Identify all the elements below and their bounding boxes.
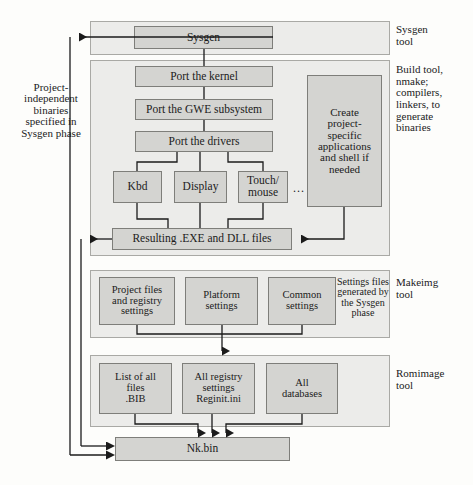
node-nk-bin-label: Nk.bin xyxy=(185,443,221,455)
side-label-build-tool: Build tool, nmake; compilers, linkers, t… xyxy=(396,64,470,134)
node-port-the-gwe-subsystem-label: Port the GWE subsystem xyxy=(144,104,264,116)
node-all-databases-label: All databases xyxy=(280,378,324,400)
node-all-registry-settings-reginit-ini[interactable]: All registry settings Reginit.ini xyxy=(182,363,255,414)
node-project-files-and-registry-settings[interactable]: Project files and registry settings xyxy=(99,277,175,325)
node-platform-settings[interactable]: Platform settings xyxy=(185,277,258,325)
node-list-of-all-files-bib[interactable]: List of all files .BIB xyxy=(99,363,172,414)
node-resulting-exe-dll-files-label: Resulting .EXE and DLL files xyxy=(130,233,273,245)
node-port-the-drivers[interactable]: Port the drivers xyxy=(135,131,273,152)
side-label-makeimg-tool: Makeimg tool xyxy=(396,277,470,300)
left-note-project-independent-binaries: Project- independent binaries specified … xyxy=(12,82,90,139)
node-display[interactable]: Display xyxy=(174,171,227,203)
node-project-files-and-registry-settings-label: Project files and registry settings xyxy=(110,285,164,317)
node-kbd-label: Kbd xyxy=(126,181,150,193)
node-port-the-gwe-subsystem[interactable]: Port the GWE subsystem xyxy=(135,99,273,120)
drivers-ellipsis: ... xyxy=(293,181,305,196)
node-touch-mouse[interactable]: Touch/ mouse xyxy=(238,171,288,203)
node-create-project-specific-apps-label: Create project- specific applications an… xyxy=(316,107,373,175)
node-list-of-all-files-bib-label: List of all files .BIB xyxy=(113,372,158,404)
node-kbd[interactable]: Kbd xyxy=(113,171,162,203)
node-platform-settings-label: Platform settings xyxy=(201,290,242,312)
node-common-settings-label: Common settings xyxy=(280,290,323,312)
side-label-sysgen-tool: Sysgen tool xyxy=(396,24,470,47)
node-all-databases[interactable]: All databases xyxy=(266,363,338,414)
node-port-the-kernel-label: Port the kernel xyxy=(168,71,240,83)
node-sysgen-label: Sysgen xyxy=(185,32,222,44)
node-create-project-specific-apps[interactable]: Create project- specific applications an… xyxy=(307,75,382,207)
node-port-the-drivers-label: Port the drivers xyxy=(167,136,242,148)
node-all-registry-settings-reginit-ini-label: All registry settings Reginit.ini xyxy=(192,372,244,404)
node-port-the-kernel[interactable]: Port the kernel xyxy=(135,66,273,87)
node-common-settings[interactable]: Common settings xyxy=(268,277,336,325)
side-label-romimage-tool: Romimage tool xyxy=(396,368,470,391)
node-sysgen[interactable]: Sysgen xyxy=(134,26,273,49)
build-process-diagram: Sysgen Port the kernel Port the GWE subs… xyxy=(0,0,473,485)
node-touch-mouse-label: Touch/ mouse xyxy=(245,175,281,199)
makeimg-caption: Settings files generated by the Sysgen p… xyxy=(337,277,389,319)
node-resulting-exe-dll-files[interactable]: Resulting .EXE and DLL files xyxy=(112,228,292,250)
node-nk-bin[interactable]: Nk.bin xyxy=(115,437,290,461)
node-display-label: Display xyxy=(181,181,221,193)
